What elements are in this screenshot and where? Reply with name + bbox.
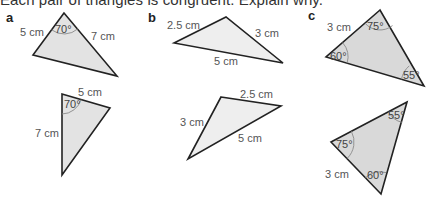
triangle-figures: a 70° 5 cm 7 cm 70° 5 cm 7 cm b 2.5 cm 3… (0, 0, 434, 202)
angle-label: 55° (403, 69, 420, 81)
triangle-b-top: 2.5 cm 3 cm 5 cm (167, 17, 283, 67)
triangle-c-bottom: 55° 75° 60° 3 cm (325, 102, 407, 194)
side-length-label: 2.5 cm (240, 88, 273, 100)
side-length-label: 5 cm (78, 86, 102, 98)
triangle-a-top: 70° 5 cm 7 cm (20, 13, 117, 76)
angle-label: 70° (64, 98, 81, 110)
side-length-label: 3 cm (327, 21, 351, 33)
side-length-label: 5 cm (238, 132, 262, 144)
angle-label: 70° (55, 23, 72, 35)
angle-label: 60° (367, 169, 384, 181)
part-label-a: a (6, 10, 14, 25)
side-length-label: 3 cm (325, 168, 349, 180)
angle-label: 60° (330, 50, 347, 62)
triangle-c-top: 75° 60° 55° 3 cm (326, 10, 424, 86)
part-label-b: b (148, 10, 156, 25)
side-length-label: 7 cm (91, 30, 115, 42)
side-length-label: 2.5 cm (167, 19, 200, 31)
side-length-label: 5 cm (214, 55, 238, 67)
angle-label: 55° (388, 109, 405, 121)
triangle-a-bottom: 70° 5 cm 7 cm (35, 86, 110, 175)
triangle-shape (188, 97, 281, 159)
angle-label: 75° (367, 20, 384, 32)
side-length-label: 3 cm (180, 116, 204, 128)
part-label-c: c (308, 8, 315, 23)
side-length-label: 3 cm (255, 27, 279, 39)
triangle-shape (33, 13, 117, 76)
angle-label: 75° (336, 138, 353, 150)
side-length-label: 5 cm (20, 26, 44, 38)
triangle-b-bottom: 2.5 cm 3 cm 5 cm (180, 88, 281, 159)
side-length-label: 7 cm (35, 127, 59, 139)
